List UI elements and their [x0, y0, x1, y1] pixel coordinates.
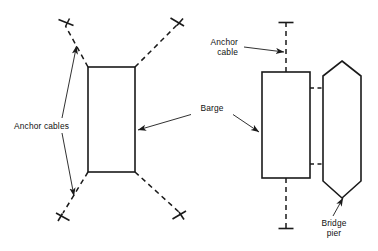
anchor-cable-lower-right [135, 172, 179, 212]
anchor-tee-lower-left-icon [56, 213, 70, 221]
barge-hull-left [88, 67, 135, 172]
leader-anchor-cables-upper [62, 46, 77, 118]
anchor-tee-upper-left-icon [59, 19, 74, 27]
label-barge: Barge [200, 103, 223, 113]
label-anchor-cable-line1: Anchor [211, 37, 238, 47]
label-anchor-cable-line2: cable [217, 47, 238, 57]
right-view-group: Anchor cable Bridge pier [211, 23, 361, 239]
barge-anchoring-diagram: Anchor cables Barge Anch [0, 0, 378, 251]
leader-barge-left [138, 115, 191, 131]
anchor-tee-upper-right-icon [171, 18, 185, 26]
label-bridge-pier-line1: Bridge [321, 218, 346, 228]
anchor-cable-upper-right [135, 25, 177, 67]
leader-barge-right [233, 115, 259, 133]
left-view-group: Anchor cables [14, 18, 186, 221]
anchor-cable-lower-left [63, 172, 88, 213]
bridge-pier-shape [323, 61, 361, 198]
barge-hull-right [262, 72, 310, 178]
leader-bridge-pier [333, 198, 343, 216]
label-bridge-pier-line2: pier [327, 228, 342, 238]
barge-callout-group: Barge [138, 103, 259, 132]
label-anchor-cables: Anchor cables [14, 121, 69, 131]
figure-canvas: Anchor cables Barge Anch [0, 0, 378, 251]
leader-anchor-cables-lower [62, 133, 74, 196]
anchor-tee-lower-right-icon [173, 211, 187, 220]
leader-anchor-cable [244, 47, 284, 52]
